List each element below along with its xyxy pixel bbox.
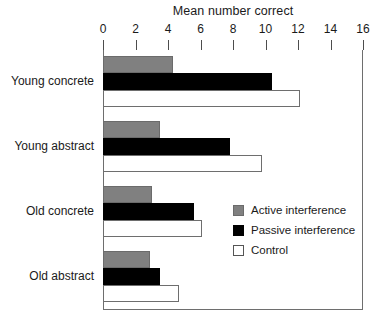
x-tick-label: 10	[259, 22, 272, 36]
bar	[103, 203, 194, 220]
y-axis-category-labels: Young concreteYoung abstractOld concrete…	[0, 50, 100, 310]
plot-area	[103, 50, 363, 310]
x-axis-tick-labels: 0246810121416	[0, 22, 383, 38]
chart-legend: Active interferencePassive interferenceC…	[233, 201, 363, 261]
y-category-label: Old concrete	[26, 204, 94, 218]
bar	[103, 220, 202, 237]
bar	[103, 155, 262, 172]
y-category-label: Young abstract	[14, 139, 94, 153]
x-tick-mark	[298, 40, 299, 50]
x-tick-mark	[233, 40, 234, 50]
bar	[103, 268, 160, 285]
legend-label: Control	[251, 244, 288, 256]
legend-item: Passive interference	[233, 221, 363, 239]
x-tick-mark	[266, 40, 267, 50]
bar	[103, 90, 300, 107]
x-tick-label: 16	[356, 22, 369, 36]
bar	[103, 56, 173, 73]
bar-chart: Mean number correct 0246810121416 Young …	[0, 0, 383, 330]
bar-group	[103, 50, 363, 115]
x-tick-mark	[103, 40, 104, 50]
bar	[103, 186, 152, 203]
x-tick-label: 12	[291, 22, 304, 36]
bar	[103, 121, 160, 138]
x-tick-label: 4	[165, 22, 172, 36]
x-tick-label: 2	[132, 22, 139, 36]
legend-swatch-icon	[233, 245, 244, 256]
bar	[103, 251, 150, 268]
x-tick-label: 0	[100, 22, 107, 36]
legend-label: Active interference	[251, 204, 346, 216]
x-tick-mark	[331, 40, 332, 50]
x-tick-mark	[363, 40, 364, 50]
bar	[103, 73, 272, 90]
bar-group	[103, 115, 363, 180]
legend-swatch-icon	[233, 225, 244, 236]
bar	[103, 138, 230, 155]
chart-title: Mean number correct	[103, 4, 363, 18]
x-tick-mark	[201, 40, 202, 50]
x-tick-label: 8	[230, 22, 237, 36]
legend-label: Passive interference	[251, 224, 355, 236]
x-tick-mark	[168, 40, 169, 50]
x-tick-label: 14	[324, 22, 337, 36]
legend-item: Active interference	[233, 201, 363, 219]
x-tick-mark	[136, 40, 137, 50]
y-category-label: Young concrete	[11, 74, 94, 88]
x-tick-label: 6	[197, 22, 204, 36]
legend-swatch-icon	[233, 205, 244, 216]
bar	[103, 285, 179, 302]
legend-item: Control	[233, 241, 363, 259]
y-category-label: Old abstract	[29, 269, 94, 283]
